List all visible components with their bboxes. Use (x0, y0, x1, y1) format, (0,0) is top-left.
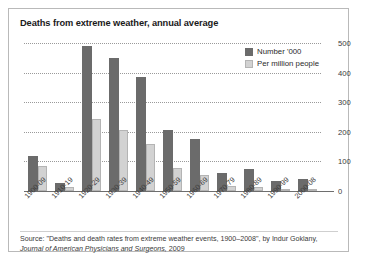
divider (20, 231, 338, 232)
x-tick-cell: 1950-59 (159, 193, 186, 233)
x-tick-cell: 1980-89 (240, 193, 267, 233)
x-tick-cell: 1910-19 (51, 193, 78, 233)
axis-baseline (24, 191, 334, 192)
x-tick-cell: 1930-39 (105, 193, 132, 233)
y-tick-100: 100 (338, 157, 351, 166)
x-tick-cell: 1990-99 (267, 193, 294, 233)
bar-group (51, 43, 78, 191)
x-tick-cell: 2000-08 (294, 193, 321, 233)
legend-label-permillion: Per million people (257, 59, 319, 68)
y-tick-200: 200 (338, 127, 351, 136)
chart-legend: Number '000 Per million people (245, 47, 319, 71)
legend-item-number: Number '000 (245, 47, 319, 56)
bar-group (78, 43, 105, 191)
source-line1: Source: "Deaths and death rates from ext… (20, 235, 318, 243)
bar-group (105, 43, 132, 191)
y-tick-400: 400 (338, 68, 351, 77)
legend-item-permillion: Per million people (245, 59, 319, 68)
x-axis-labels: 1900-091910-191920-291930-391940-491950-… (24, 193, 321, 233)
y-tick-0: 0 (338, 187, 342, 196)
bar-group (132, 43, 159, 191)
x-tick-cell: 1960-69 (186, 193, 213, 233)
x-tick-cell: 1940-49 (132, 193, 159, 233)
bar-group (186, 43, 213, 191)
source-note: Source: "Deaths and death rates from ext… (20, 235, 338, 254)
y-tick-300: 300 (338, 98, 351, 107)
legend-swatch-light-icon (245, 60, 253, 68)
bar-group (213, 43, 240, 191)
bar-number (136, 77, 146, 191)
source-year: 2009 (167, 245, 185, 253)
chart-card: Deaths from extreme weather, annual aver… (8, 8, 349, 252)
bar-number (82, 46, 92, 191)
bar-group (24, 43, 51, 191)
x-tick-cell: 1900-09 (24, 193, 51, 233)
bar-group (159, 43, 186, 191)
x-tick-cell: 1920-29 (78, 193, 105, 233)
chart-title: Deaths from extreme weather, annual aver… (20, 18, 218, 28)
legend-swatch-dark-icon (245, 48, 253, 56)
legend-label-number: Number '000 (257, 47, 301, 56)
y-tick-500: 500 (338, 39, 351, 48)
bar-number (109, 58, 119, 191)
source-journal: Journal of American Physicians and Surge… (20, 245, 167, 253)
x-tick-cell: 1970-79 (213, 193, 240, 233)
